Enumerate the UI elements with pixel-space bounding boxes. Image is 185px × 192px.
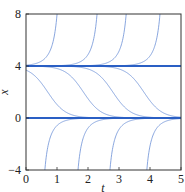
x-tick-label: 4 (147, 172, 153, 186)
solution-curve (43, 118, 181, 192)
x-tick-label: 0 (23, 172, 29, 186)
x-tick-label: 3 (116, 172, 122, 186)
y-axis-label: x (0, 89, 11, 96)
plot-frame (26, 14, 181, 170)
y-tick-label: 4 (15, 59, 21, 73)
solution-curve (26, 66, 181, 117)
solution-curve (26, 0, 162, 66)
solution-curve (26, 70, 181, 118)
solution-curve (26, 0, 128, 66)
solution-curve (26, 0, 59, 65)
solution-curves-chart: 012345−4048 t x (0, 0, 185, 192)
x-axis-label: t (101, 181, 105, 192)
x-tick-label: 1 (54, 172, 60, 186)
solution-curves (26, 0, 181, 192)
x-tick-label: 5 (178, 172, 184, 186)
solution-curve (26, 66, 181, 118)
solution-curve (26, 0, 99, 66)
y-tick-label: 0 (15, 111, 21, 125)
equilibrium-lines (26, 66, 181, 118)
solution-curve (26, 66, 181, 118)
solution-curve (77, 118, 181, 189)
y-tick-label: 8 (15, 7, 21, 21)
x-tick-label: 2 (85, 172, 91, 186)
y-tick-label: −4 (8, 163, 21, 177)
